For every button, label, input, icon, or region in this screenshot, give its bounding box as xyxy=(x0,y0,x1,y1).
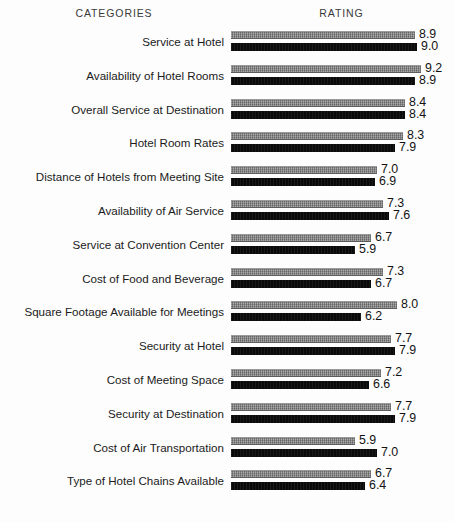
category-label: Security at Destination xyxy=(0,405,224,423)
category-label: Overall Service at Destination xyxy=(0,101,224,119)
bar-black xyxy=(231,246,355,254)
chart-row: Square Footage Available for Meetings8.0… xyxy=(0,296,455,330)
category-label: Square Footage Available for Meetings xyxy=(0,303,224,321)
category-label: Cost of Meeting Space xyxy=(0,371,224,389)
bar-gray xyxy=(231,403,391,411)
chart-row: Availability of Hotel Rooms9.28.9 xyxy=(0,60,455,94)
category-label: Service at Hotel xyxy=(0,33,224,51)
bar-value-label: 5.9 xyxy=(359,433,376,447)
bar-gray xyxy=(231,268,383,276)
chart-row: Cost of Food and Beverage7.36.7 xyxy=(0,263,455,297)
chart-plot-area: Service at Hotel8.99.0Availability of Ho… xyxy=(0,26,455,499)
chart-row: Security at Hotel7.77.9 xyxy=(0,330,455,364)
bar-value-label: 6.4 xyxy=(369,478,386,492)
category-label: Availability of Air Service xyxy=(0,202,224,220)
bar-value-label: 6.2 xyxy=(365,309,382,323)
chart-row: Service at Hotel8.99.0 xyxy=(0,26,455,60)
bar-value-label: 8.0 xyxy=(401,297,418,311)
bar-black xyxy=(231,111,405,119)
bar-black xyxy=(231,482,365,490)
bar-chart: CATEGORIES RATING Service at Hotel8.99.0… xyxy=(0,0,455,523)
bar-black xyxy=(231,347,395,355)
bar-value-label: 7.9 xyxy=(399,140,416,154)
bar-black xyxy=(231,280,371,288)
category-label: Cost of Food and Beverage xyxy=(0,270,224,288)
bar-gray xyxy=(231,437,355,445)
bar-value-label: 6.6 xyxy=(373,377,390,391)
bar-value-label: 5.9 xyxy=(359,242,376,256)
bar-value-label: 7.6 xyxy=(393,208,410,222)
category-label: Type of Hotel Chains Available xyxy=(0,472,224,490)
chart-row: Cost of Meeting Space7.26.6 xyxy=(0,364,455,398)
bar-gray xyxy=(231,132,403,140)
bar-gray xyxy=(231,335,391,343)
bar-gray xyxy=(231,31,415,39)
chart-row: Availability of Air Service7.37.6 xyxy=(0,195,455,229)
bar-value-label: 8.4 xyxy=(409,107,426,121)
categories-column-header: CATEGORIES xyxy=(0,7,228,19)
chart-row: Type of Hotel Chains Available6.76.4 xyxy=(0,465,455,499)
bar-gray xyxy=(231,65,421,73)
bar-black xyxy=(231,415,395,423)
bar-value-label: 7.0 xyxy=(381,445,398,459)
bar-value-label: 8.9 xyxy=(419,73,436,87)
bar-gray xyxy=(231,166,377,174)
bar-value-label: 6.9 xyxy=(379,174,396,188)
bar-value-label: 6.7 xyxy=(375,230,392,244)
bar-black xyxy=(231,212,389,220)
bar-gray xyxy=(231,369,381,377)
chart-header: CATEGORIES RATING xyxy=(0,7,455,23)
bar-black xyxy=(231,178,375,186)
bar-value-label: 6.7 xyxy=(375,276,392,290)
bar-gray xyxy=(231,470,371,478)
bar-black xyxy=(231,313,361,321)
category-label: Hotel Room Rates xyxy=(0,134,224,152)
category-label: Cost of Air Transportation xyxy=(0,439,224,457)
bar-gray xyxy=(231,200,383,208)
category-label: Service at Convention Center xyxy=(0,236,224,254)
chart-row: Security at Destination7.77.9 xyxy=(0,398,455,432)
bar-gray xyxy=(231,234,371,242)
rating-column-header: RATING xyxy=(228,7,455,19)
category-label: Distance of Hotels from Meeting Site xyxy=(0,168,224,186)
category-label: Security at Hotel xyxy=(0,337,224,355)
chart-row: Cost of Air Transportation5.97.0 xyxy=(0,432,455,466)
bar-gray xyxy=(231,301,397,309)
bar-black xyxy=(231,43,417,51)
bar-value-label: 9.0 xyxy=(421,39,438,53)
bar-black xyxy=(231,449,377,457)
bar-black xyxy=(231,381,369,389)
chart-row: Service at Convention Center6.75.9 xyxy=(0,229,455,263)
bar-value-label: 7.9 xyxy=(399,343,416,357)
bar-black xyxy=(231,77,415,85)
category-label: Availability of Hotel Rooms xyxy=(0,67,224,85)
chart-row: Hotel Room Rates8.37.9 xyxy=(0,127,455,161)
bar-black xyxy=(231,144,395,152)
chart-row: Distance of Hotels from Meeting Site7.06… xyxy=(0,161,455,195)
bar-value-label: 7.9 xyxy=(399,411,416,425)
bar-gray xyxy=(231,99,405,107)
chart-row: Overall Service at Destination8.48.4 xyxy=(0,94,455,128)
